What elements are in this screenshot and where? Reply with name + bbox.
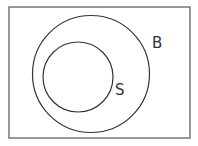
set-b-label: B xyxy=(152,34,162,52)
set-s-label: S xyxy=(115,81,125,99)
venn-diagram: B S xyxy=(0,0,198,146)
universal-set-frame xyxy=(9,7,190,138)
